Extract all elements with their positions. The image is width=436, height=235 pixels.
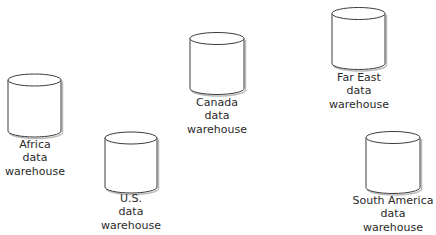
node-label-far-east: Far East data warehouse <box>299 71 419 111</box>
label-line: warehouse <box>157 123 277 136</box>
node-label-south-america: South America data warehouse <box>333 194 436 234</box>
node-label-us: U.S. data warehouse <box>71 192 191 232</box>
label-line: data <box>71 205 191 218</box>
label-line: warehouse <box>299 98 419 111</box>
label-line: South America <box>333 194 436 207</box>
cylinder-body <box>105 138 157 193</box>
cylinder-top <box>366 132 420 144</box>
cylinder-top <box>8 74 61 86</box>
label-line: data <box>0 151 95 164</box>
cylinder-top <box>105 132 157 144</box>
cylinder-top <box>190 33 244 45</box>
label-line: data <box>157 109 277 122</box>
label-line: data <box>333 207 436 220</box>
node-label-canada: Canada data warehouse <box>157 96 277 136</box>
label-line: Canada <box>157 96 277 109</box>
label-line: Africa <box>0 138 95 151</box>
label-line: warehouse <box>0 165 95 178</box>
label-line: Far East <box>299 71 419 84</box>
label-line: data <box>299 84 419 97</box>
cylinder-body <box>332 14 385 70</box>
cylinder-africa <box>8 74 63 139</box>
cylinder-body <box>8 80 61 137</box>
node-label-africa: Africa data warehouse <box>0 138 95 178</box>
cylinder-top <box>332 8 385 20</box>
label-line: warehouse <box>71 219 191 232</box>
cylinder-far-east <box>332 8 387 72</box>
cylinder-body <box>190 39 244 95</box>
cylinder-canada <box>190 33 246 96</box>
cylinder-body <box>366 138 420 194</box>
label-line: warehouse <box>333 221 436 234</box>
cylinder-south-america <box>366 132 422 196</box>
cylinder-us <box>105 132 159 195</box>
label-line: U.S. <box>71 192 191 205</box>
